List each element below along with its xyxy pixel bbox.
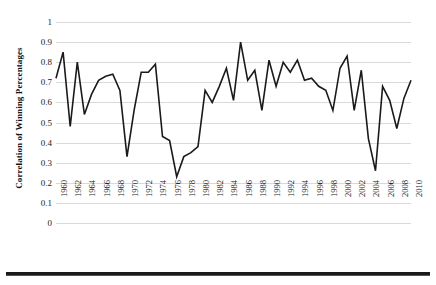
x-tick-label: 1980 [202, 180, 211, 224]
correlation-series-line [56, 42, 411, 177]
x-tick-label: 2010 [415, 180, 424, 224]
y-tick-label: 0.1 [0, 198, 52, 208]
y-tick-label: 0.2 [0, 178, 52, 188]
x-tick-label: 2006 [387, 180, 396, 224]
x-tick-label: 1986 [245, 180, 254, 224]
y-tick-label: 0.8 [0, 57, 52, 67]
y-tick-label: 0.4 [0, 138, 52, 148]
x-tick-label: 2004 [372, 180, 381, 224]
y-tick-label: 0 [0, 218, 52, 228]
x-tick-label: 1988 [259, 180, 268, 224]
x-axis-tick-labels: 1960196219641966196819701972197419761978… [56, 224, 411, 268]
y-tick-label: 1 [0, 17, 52, 27]
y-tick-label: 0.7 [0, 77, 52, 87]
x-tick-label: 1960 [60, 180, 69, 224]
x-tick-label: 1972 [145, 180, 154, 224]
chart-figure: Correlation of Winning Percentages 00.10… [0, 0, 436, 285]
x-tick-label: 1990 [273, 180, 282, 224]
x-tick-label: 1982 [216, 180, 225, 224]
x-tick-label: 2008 [401, 180, 410, 224]
y-tick-label: 0.9 [0, 37, 52, 47]
x-tick-label: 1968 [117, 180, 126, 224]
y-tick-label: 0.3 [0, 158, 52, 168]
x-tick-label: 2000 [344, 180, 353, 224]
x-tick-label: 1998 [330, 180, 339, 224]
y-tick-label: 0.6 [0, 97, 52, 107]
x-tick-label: 1970 [131, 180, 140, 224]
x-tick-label: 1976 [174, 180, 183, 224]
x-tick-label: 1962 [74, 180, 83, 224]
x-tick-label: 1978 [188, 180, 197, 224]
x-tick-label: 1984 [230, 180, 239, 224]
x-tick-label: 1996 [316, 180, 325, 224]
y-tick-label: 0.5 [0, 118, 52, 128]
x-tick-label: 2002 [358, 180, 367, 224]
x-tick-label: 1992 [287, 180, 296, 224]
x-tick-label: 1994 [301, 180, 310, 224]
x-tick-label: 1974 [159, 180, 168, 224]
x-tick-label: 1966 [103, 180, 112, 224]
x-tick-label: 1964 [88, 180, 97, 224]
footer-rule-secondary [6, 275, 430, 276]
